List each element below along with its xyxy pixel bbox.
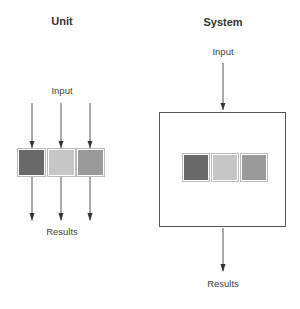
arrows-layer [0,0,300,309]
